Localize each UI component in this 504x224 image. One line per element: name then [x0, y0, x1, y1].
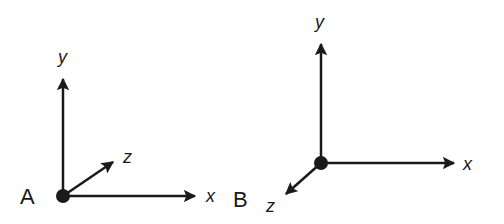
- a-origin-dot: [56, 189, 70, 203]
- coordinate-system-b: B y x z: [233, 12, 473, 216]
- b-system-label: B: [233, 187, 248, 212]
- b-origin-dot: [314, 156, 328, 170]
- coordinate-system-a: A y x z: [20, 47, 216, 209]
- a-x-label: x: [205, 186, 216, 206]
- a-z-label: z: [122, 147, 132, 167]
- b-z-axis: [286, 163, 321, 194]
- a-y-label: y: [56, 47, 68, 67]
- b-y-label: y: [313, 12, 325, 32]
- a-system-label: A: [20, 184, 35, 209]
- b-x-label: x: [462, 154, 473, 174]
- b-z-label: z: [265, 196, 275, 216]
- a-z-axis: [63, 162, 113, 196]
- coordinate-systems-diagram: A y x z B y x z: [0, 0, 504, 224]
